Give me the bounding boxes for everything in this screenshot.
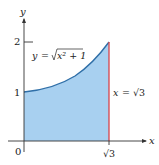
curve-eq-equals: = xyxy=(41,50,49,61)
curve-eq-radicand: x² + 1 xyxy=(57,50,86,61)
y-axis-label: y xyxy=(19,6,26,17)
boundary-eq-lhs: x xyxy=(113,87,119,98)
y-tick-label-2: 2 xyxy=(14,36,20,47)
x-axis-label: x xyxy=(149,135,155,146)
y-tick-label-1: 1 xyxy=(14,87,20,98)
curve-eq-lhs: y xyxy=(31,50,38,61)
boundary-eq-rhs: √3 xyxy=(133,87,145,98)
boundary-eq-equals: = xyxy=(122,87,130,98)
diagram-canvas: y x 0 2 1 √3 y = x² + 1 x = √3 xyxy=(0,0,159,165)
x-tick-label-sqrt3: √3 xyxy=(103,148,115,159)
origin-label: 0 xyxy=(15,146,21,157)
curve-equation-label: y = x² + 1 xyxy=(31,49,86,61)
boundary-equation-label: x = √3 xyxy=(113,87,145,98)
